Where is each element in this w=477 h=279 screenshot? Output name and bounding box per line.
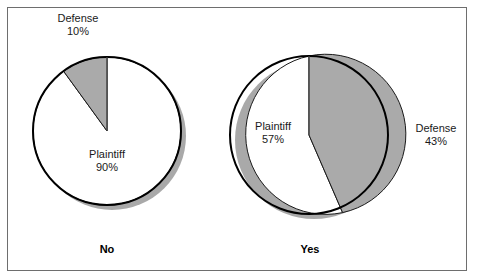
slice-label-no-defense-value: 10% [46, 25, 110, 38]
slice-label-yes-defense-value: 43% [404, 135, 468, 148]
slice-label-no-defense-name: Defense [46, 12, 110, 25]
slice-label-yes-defense-name: Defense [404, 122, 468, 135]
slice-label-no-plaintiff: Plaintiff 90% [75, 148, 139, 174]
category-label-no: No [77, 243, 137, 255]
pie-chart-figure: Defense 10% Plaintiff 90% Plaintiff 57% … [0, 0, 477, 279]
slice-label-yes-plaintiff: Plaintiff 57% [241, 120, 305, 146]
slice-label-yes-plaintiff-name: Plaintiff [241, 120, 305, 133]
category-label-yes: Yes [280, 243, 340, 255]
slice-label-yes-defense: Defense 43% [404, 122, 468, 148]
slice-label-yes-plaintiff-value: 57% [241, 133, 305, 146]
slice-label-no-defense: Defense 10% [46, 12, 110, 38]
slice-label-no-plaintiff-name: Plaintiff [75, 148, 139, 161]
slice-label-no-plaintiff-value: 90% [75, 161, 139, 174]
